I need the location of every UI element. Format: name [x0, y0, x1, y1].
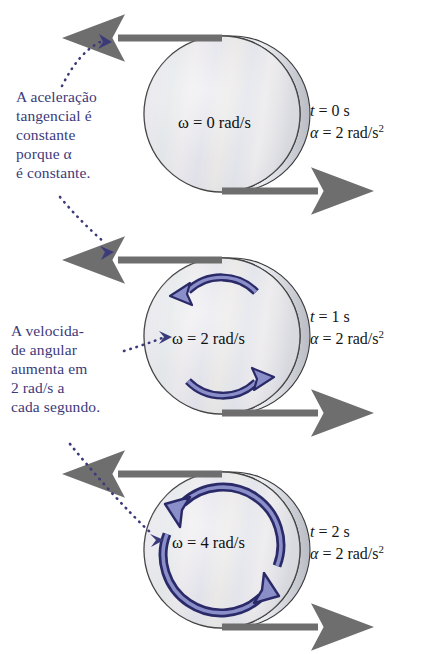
alpha-symbol: α — [310, 330, 318, 347]
time-symbol: t — [310, 308, 314, 325]
annotation-angular-velocity: A velocida- de angular aumenta em 2 rad/… — [11, 322, 133, 417]
alpha-unit: rad/s — [347, 330, 378, 347]
alpha-symbol: α — [310, 124, 318, 141]
rotational-motion-figure: A aceleração tangencial é constante porq… — [0, 0, 434, 654]
alpha-value: 2 — [335, 330, 343, 347]
omega-label-panel-t1: ω = 2 rad/s — [172, 329, 245, 349]
alpha-label: α = 2 rad/s2 — [310, 122, 384, 144]
time-value: 0 — [331, 102, 339, 119]
time-unit: s — [343, 523, 349, 540]
state-label-panel-t0: t = 0 s α = 2 rad/s2 — [310, 100, 384, 144]
time-value: 1 — [331, 308, 339, 325]
alpha-label: α = 2 rad/s2 — [310, 328, 384, 350]
time-unit: s — [343, 102, 349, 119]
rotation-arrow-lower — [188, 368, 274, 396]
time-unit: s — [343, 308, 349, 325]
time-label: t = 0 s — [310, 100, 384, 122]
alpha-symbol: α — [310, 545, 318, 562]
leader-line-accel-bottom — [60, 197, 114, 260]
annotation-tangential-acceleration: A aceleração tangencial é constante porq… — [16, 88, 136, 183]
omega-label-panel-t2: ω = 4 rad/s — [172, 533, 245, 553]
time-symbol: t — [310, 523, 314, 540]
time-symbol: t — [310, 102, 314, 119]
leader-line-accel-top — [62, 34, 112, 86]
rotation-arrow-upper — [165, 487, 281, 566]
omega-label-panel-t0: ω = 0 rad/s — [178, 113, 251, 133]
rotation-arrow-upper — [170, 277, 256, 305]
alpha-value: 2 — [335, 124, 343, 141]
time-label: t = 2 s — [310, 521, 384, 543]
alpha-value: 2 — [335, 545, 343, 562]
state-label-panel-t2: t = 2 s α = 2 rad/s2 — [310, 521, 384, 565]
leader-line-omega-3 — [70, 444, 164, 547]
time-label: t = 1 s — [310, 306, 384, 328]
alpha-unit: rad/s — [347, 124, 378, 141]
alpha-exponent: 2 — [379, 543, 384, 555]
alpha-unit: rad/s — [347, 545, 378, 562]
time-value: 2 — [331, 523, 339, 540]
alpha-exponent: 2 — [379, 328, 384, 340]
alpha-label: α = 2 rad/s2 — [310, 543, 384, 565]
state-label-panel-t1: t = 1 s α = 2 rad/s2 — [310, 306, 384, 350]
alpha-exponent: 2 — [379, 122, 384, 134]
